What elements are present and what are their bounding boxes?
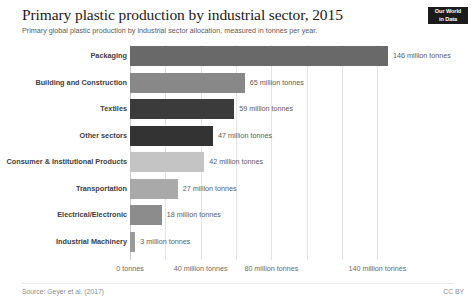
bar-category-label: Industrial Machinery (56, 231, 127, 253)
bar-row[interactable]: Other sectors47 million tonnes (0, 125, 476, 147)
x-axis: 0 tonnes40 million tonnes80 million tonn… (0, 264, 476, 278)
plot-area: Packaging146 million tonnesBuilding and … (0, 45, 476, 260)
bar-row[interactable]: Consumer & Institutional Products42 mill… (0, 151, 476, 173)
bar-category-label: Transportation (76, 178, 127, 200)
chart-subtitle: Primary global plastic production by ind… (22, 26, 392, 35)
bar[interactable] (130, 73, 245, 93)
bar-row[interactable]: Electrical/Electronic18 million tonnes (0, 204, 476, 226)
our-world-in-data-logo[interactable]: Our World in Data (428, 7, 468, 24)
bar-row[interactable]: Textiles59 million tonnes (0, 98, 476, 120)
bar-value-label: 146 million tonnes (393, 45, 451, 67)
bar-value-label: 27 million tonnes (183, 178, 237, 200)
x-axis-tick-label: 80 million tonnes (244, 264, 298, 273)
bar[interactable] (130, 152, 204, 172)
bar[interactable] (130, 205, 162, 225)
bar-value-label: 47 million tonnes (218, 125, 272, 147)
bar-rows: Packaging146 million tonnesBuilding and … (0, 45, 476, 260)
x-axis-tick-label: 0 tonnes (116, 264, 144, 273)
logo-line-1: Our World (428, 8, 468, 16)
bar[interactable] (130, 46, 388, 66)
bar-row[interactable]: Industrial Machinery3 million tonnes (0, 231, 476, 253)
chart-header: Primary plastic production by industrial… (22, 6, 392, 35)
page-title: Primary plastic production by industrial… (22, 6, 392, 23)
bar-category-label: Other sectors (80, 125, 127, 147)
bar[interactable] (130, 99, 234, 119)
bar-row[interactable]: Packaging146 million tonnes (0, 45, 476, 67)
bar-value-label: 3 million tonnes (140, 231, 190, 253)
license-note[interactable]: CC BY (443, 288, 464, 295)
bar[interactable] (130, 179, 178, 199)
x-axis-tick-label: 140 million tonnes (348, 264, 406, 273)
chart-container: Primary plastic production by industrial… (0, 0, 476, 301)
x-axis-tick-label: 40 million tonnes (174, 264, 228, 273)
bar-category-label: Electrical/Electronic (57, 204, 127, 226)
bar-value-label: 42 million tonnes (209, 151, 263, 173)
bar-row[interactable]: Building and Construction65 million tonn… (0, 72, 476, 94)
logo-line-2: in Data (428, 16, 468, 24)
bar-category-label: Packaging (91, 45, 128, 67)
bar[interactable] (130, 126, 213, 146)
bar-row[interactable]: Transportation27 million tonnes (0, 178, 476, 200)
bar-category-label: Textiles (100, 98, 127, 120)
bar-value-label: 59 million tonnes (239, 98, 293, 120)
bar[interactable] (130, 232, 135, 252)
bar-value-label: 65 million tonnes (250, 72, 304, 94)
source-note: Source: Geyer et al. (2017) (22, 288, 104, 295)
bar-category-label: Consumer & Institutional Products (7, 151, 127, 173)
bar-category-label: Building and Construction (35, 72, 127, 94)
footer-divider (22, 283, 454, 284)
bar-value-label: 18 million tonnes (167, 204, 221, 226)
